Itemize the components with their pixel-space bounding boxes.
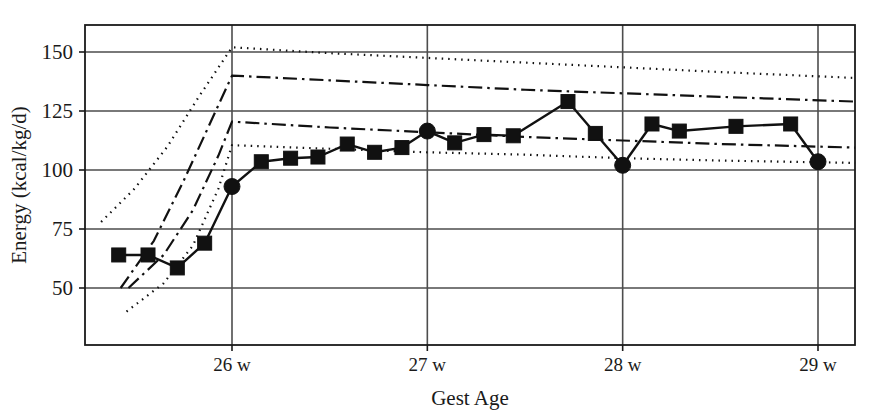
- data-point-square-12: [448, 136, 462, 150]
- x-tick-label-29w: 29 w: [799, 354, 837, 375]
- y-axis-tick-labels: 5075100125150: [42, 40, 74, 300]
- data-point-circle-4: [224, 179, 240, 195]
- data-point-square-10: [395, 141, 409, 155]
- energy-vs-gestational-age-chart: 5075100125150 26 w27 w28 w29 w Gest Age …: [0, 0, 873, 417]
- x-tick-label-26w: 26 w: [213, 354, 251, 375]
- y-tick-label-100: 100: [42, 158, 74, 182]
- x-axis-title: Gest Age: [431, 386, 509, 410]
- data-point-circle-11: [419, 123, 435, 139]
- x-tick-label-28w: 28 w: [604, 354, 642, 375]
- y-tick-label-125: 125: [42, 99, 74, 123]
- data-point-square-15: [561, 95, 575, 109]
- data-point-square-7: [311, 150, 325, 164]
- data-point-square-16: [588, 126, 602, 140]
- figure-container: 5075100125150 26 w27 w28 w29 w Gest Age …: [0, 0, 873, 417]
- data-point-square-8: [340, 137, 354, 151]
- data-point-square-13: [477, 128, 491, 142]
- data-point-square-0: [112, 248, 126, 262]
- data-point-square-6: [284, 151, 298, 165]
- data-point-circle-17: [615, 157, 631, 173]
- data-point-square-5: [254, 155, 268, 169]
- plot-background: [85, 25, 855, 345]
- plot-area-background: [85, 25, 855, 345]
- data-point-square-18: [645, 117, 659, 131]
- data-point-square-9: [368, 145, 382, 159]
- data-point-square-2: [170, 261, 184, 275]
- data-point-circle-22: [810, 154, 826, 170]
- data-point-square-21: [784, 117, 798, 131]
- data-point-square-3: [198, 236, 212, 250]
- x-axis-tick-labels: 26 w27 w28 w29 w: [213, 354, 837, 375]
- data-point-square-1: [141, 248, 155, 262]
- y-tick-label-150: 150: [42, 40, 74, 64]
- y-tick-label-50: 50: [52, 276, 73, 300]
- y-axis-title: Energy (kcal/kg/d): [7, 106, 31, 264]
- y-tick-label-75: 75: [52, 217, 73, 241]
- data-point-square-20: [729, 119, 743, 133]
- data-point-square-14: [506, 129, 520, 143]
- x-tick-label-27w: 27 w: [409, 354, 447, 375]
- data-point-square-19: [672, 124, 686, 138]
